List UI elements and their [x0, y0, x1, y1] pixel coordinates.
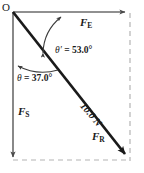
- theta-symbol: θ: [17, 73, 22, 83]
- origin-label: O: [2, 2, 10, 13]
- theta-value: 37.0°: [32, 73, 52, 83]
- east-force-label: FE: [80, 17, 92, 30]
- theta-prime-symbol: θ′: [55, 45, 62, 55]
- resultant-force-label: FR: [92, 131, 105, 144]
- vector-diagram-canvas: [0, 0, 144, 173]
- south-force-label: FS: [18, 106, 30, 119]
- theta-prime-value: 53.0°: [72, 45, 92, 55]
- theta-label: θ = 37.0°: [17, 74, 52, 84]
- theta-equals: =: [24, 73, 29, 83]
- south-force-subscript: S: [25, 110, 29, 119]
- theta-prime-equals: =: [64, 45, 69, 55]
- resultant-force-subscript: R: [99, 135, 104, 144]
- theta-prime-label: θ′ = 53.0°: [55, 46, 92, 56]
- east-force-subscript: E: [87, 21, 92, 30]
- force-vector-diagram: O FE FS FR 10.0 N θ′ = 53.0° θ = 37.0°: [0, 0, 144, 173]
- theta-arc: [18, 66, 58, 72]
